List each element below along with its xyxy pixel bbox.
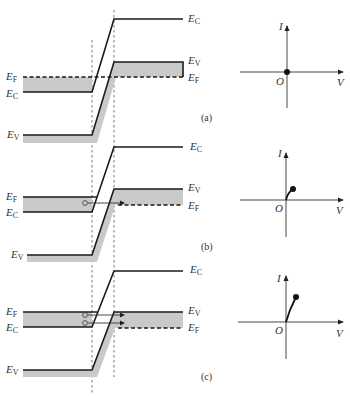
panel-b-band-diagram: EF EC EV EC EV EF (b)	[5, 140, 213, 262]
axis-label-i: I	[277, 147, 283, 159]
label-ef-right: EF	[187, 321, 200, 335]
axis-label-v: V	[336, 327, 344, 339]
axis-label-origin: O	[275, 324, 283, 336]
axis-label-i: I	[278, 20, 284, 32]
iv-curve	[286, 297, 296, 322]
label-ev-right: EV	[187, 304, 201, 318]
caption-a: (a)	[201, 112, 212, 124]
tunnel-diode-figure: EF EC EV EC EV EF (a) I O V EF EC EV EC …	[0, 0, 350, 397]
panel-a-iv-plot: I O V	[240, 20, 345, 108]
label-ev-left: EV	[10, 248, 24, 262]
label-ef-left: EF	[5, 190, 18, 204]
axis-label-origin: O	[275, 202, 283, 214]
label-ec-left: EC	[5, 321, 18, 335]
axis-label-v: V	[337, 76, 345, 88]
label-ec-left: EC	[5, 87, 18, 101]
label-ec-right: EC	[189, 140, 202, 154]
axis-label-origin: O	[276, 75, 284, 87]
label-ev-left: EV	[6, 128, 20, 142]
label-ev-left: EV	[5, 363, 19, 377]
axis-label-v: V	[336, 204, 344, 216]
label-ef-left: EF	[5, 70, 18, 84]
label-ec-left: EC	[5, 206, 18, 220]
panel-c-iv-plot: I O V	[238, 272, 344, 359]
panel-a-band-diagram: EF EC EV EC EV EF (a)	[5, 12, 212, 143]
caption-b: (b)	[201, 241, 213, 253]
label-ec-right: EC	[187, 12, 200, 26]
axis-label-i: I	[276, 272, 282, 284]
label-ef-right: EF	[187, 71, 200, 85]
operating-point	[293, 294, 299, 300]
panel-b-iv-plot: I O V	[240, 147, 344, 237]
operating-point	[290, 186, 296, 192]
panel-c-band-diagram: EF EC EV EC EV EF (c)	[5, 263, 212, 383]
operating-point	[284, 69, 290, 75]
label-ef-right: EF	[187, 199, 200, 213]
label-ev-right: EV	[187, 54, 201, 68]
label-ec-right: EC	[189, 263, 202, 277]
caption-c: (c)	[201, 371, 212, 383]
label-ef-left: EF	[5, 305, 18, 319]
label-ev-right: EV	[187, 181, 201, 195]
